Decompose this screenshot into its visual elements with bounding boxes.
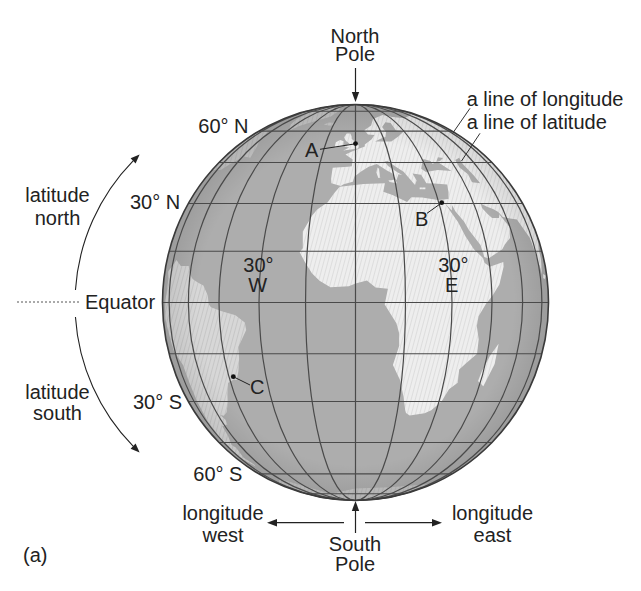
latitude-north-line1: latitude bbox=[0, 184, 115, 207]
point-b-label: B bbox=[415, 208, 428, 231]
label-equator: Equator bbox=[85, 291, 155, 314]
callout-latitude-line: a line of latitude bbox=[467, 111, 607, 134]
label-30e-direction: E bbox=[445, 274, 458, 297]
longitude-west-label: longitude west bbox=[163, 502, 283, 546]
north-pole-line2: Pole bbox=[305, 45, 405, 63]
south-pole-label: South Pole bbox=[305, 534, 405, 574]
longitude-west-line2: west bbox=[163, 524, 283, 546]
north-pole-arrowhead-icon bbox=[352, 92, 359, 102]
north-pole-label: North Pole bbox=[305, 27, 405, 64]
longitude-arrows bbox=[267, 519, 442, 526]
point-a-label: A bbox=[305, 139, 318, 162]
longitude-west-line1: longitude bbox=[163, 502, 283, 524]
latitude-north-line2: north bbox=[0, 207, 115, 230]
latitude-south-line1: latitude bbox=[0, 382, 115, 404]
point-c-label: C bbox=[250, 376, 264, 399]
globe bbox=[150, 90, 600, 520]
longitude-east-label: longitude east bbox=[433, 502, 553, 546]
south-pole-line1: South bbox=[305, 534, 405, 554]
longitude-east-line2: east bbox=[433, 524, 553, 546]
south-pole-arrowhead-icon bbox=[352, 501, 359, 511]
south-pole-line2: Pole bbox=[305, 554, 405, 574]
label-30s: 30° S bbox=[133, 391, 182, 414]
point-c-dot bbox=[231, 374, 236, 379]
longitude-east-line1: longitude bbox=[433, 502, 553, 524]
globe-figure: North Pole South Pole a line of longitud… bbox=[0, 0, 641, 591]
label-60n: 60° N bbox=[198, 115, 248, 138]
panel-label: (a) bbox=[23, 544, 47, 567]
label-30w-direction: W bbox=[248, 274, 267, 297]
latitude-south-label: latitude south bbox=[0, 382, 115, 425]
label-30n: 30° N bbox=[130, 191, 180, 214]
callout-longitude-line: a line of longitude bbox=[467, 88, 624, 111]
latitude-south-line2: south bbox=[0, 403, 115, 425]
label-60s: 60° S bbox=[193, 463, 242, 486]
point-b-dot bbox=[439, 200, 444, 205]
latitude-north-label: latitude north bbox=[0, 184, 115, 229]
point-a-dot bbox=[353, 141, 358, 146]
